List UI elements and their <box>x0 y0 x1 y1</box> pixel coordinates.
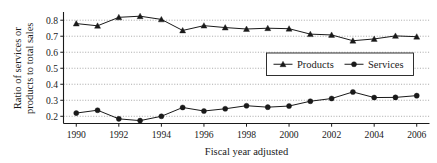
x-tick-label-1990: 1990 <box>67 129 86 140</box>
y-tick-label-0.4: 0.4 <box>46 79 58 90</box>
data-point-services-2000 <box>287 103 292 108</box>
data-point-services-1993 <box>138 118 143 123</box>
data-point-services-1990 <box>74 111 79 116</box>
data-point-services-1996 <box>201 108 206 113</box>
data-point-services-2002 <box>329 96 334 101</box>
line-chart: 0.20.30.40.50.60.70.8 199019921994199619… <box>0 0 437 163</box>
data-point-services-1998 <box>244 103 249 108</box>
legend: ProductsServices <box>267 53 414 76</box>
y-tick-label-0.6: 0.6 <box>46 47 58 58</box>
chart-figure: 0.20.30.40.50.60.70.8 199019921994199619… <box>0 0 437 163</box>
data-point-services-legend <box>351 62 356 67</box>
data-point-services-1991 <box>95 108 100 113</box>
y-tick-label-0.2: 0.2 <box>46 111 58 122</box>
x-tick-label-1998: 1998 <box>237 129 256 140</box>
data-point-services-1992 <box>116 116 121 121</box>
y-axis-title-line2: products to total sales <box>24 23 35 114</box>
data-point-services-1999 <box>265 105 270 110</box>
data-point-services-2003 <box>350 89 355 94</box>
y-axis-title-line1: Ratio of services or <box>12 27 23 109</box>
x-tick-label-1992: 1992 <box>109 129 128 140</box>
data-point-services-1997 <box>223 106 228 111</box>
y-tick-label-0.8: 0.8 <box>46 15 58 26</box>
legend-label-services: Services <box>368 59 404 70</box>
data-point-services-2001 <box>308 99 313 104</box>
data-point-services-2005 <box>393 95 398 100</box>
x-tick-label-2002: 2002 <box>322 129 341 140</box>
data-point-services-2004 <box>372 95 377 100</box>
x-tick-label-2000: 2000 <box>279 129 298 140</box>
x-tick-label-2006: 2006 <box>407 129 426 140</box>
y-tick-label-0.3: 0.3 <box>46 95 58 106</box>
x-tick-label-2004: 2004 <box>365 129 384 140</box>
series-products <box>73 13 419 43</box>
data-point-services-1994 <box>159 114 164 119</box>
legend-label-products: Products <box>297 59 334 70</box>
y-tick-labels: 0.20.30.40.50.60.70.8 <box>46 15 58 122</box>
y-tick-label-0.5: 0.5 <box>46 63 58 74</box>
x-tick-label-1994: 1994 <box>152 129 171 140</box>
data-point-services-2006 <box>414 93 419 98</box>
x-axis-title: Fiscal year adjusted <box>205 146 289 157</box>
x-tick-labels: 199019921994199619982000200220042006 <box>67 129 427 140</box>
data-point-services-1995 <box>180 105 185 110</box>
series-services <box>74 89 420 123</box>
x-tick-label-1996: 1996 <box>194 129 213 140</box>
y-tick-label-0.7: 0.7 <box>46 31 58 42</box>
